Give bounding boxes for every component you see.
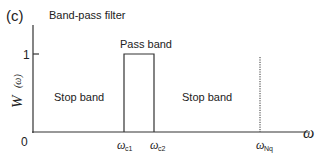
- origin-label: 0: [21, 135, 28, 149]
- tick-wc2: ω c2: [150, 138, 166, 152]
- svg-text:Nq: Nq: [264, 145, 273, 153]
- svg-text:c2: c2: [158, 145, 166, 152]
- y-tick-label: 1: [23, 48, 30, 62]
- stop-band-right-label: Stop band: [182, 91, 232, 103]
- svg-text:c1: c1: [125, 145, 133, 152]
- chart-title: Band-pass filter: [49, 9, 126, 21]
- y-axis-label: W (ω): [9, 74, 25, 108]
- pass-band-label: Pass band: [120, 38, 172, 50]
- svg-text:W: W: [9, 94, 25, 108]
- pass-band-box: [124, 54, 154, 132]
- tick-wnq: ω Nq: [256, 138, 273, 153]
- band-pass-diagram: (c) Band-pass filter 1 0 W (ω) Pass band…: [0, 0, 321, 157]
- x-axis-label: ω: [303, 124, 314, 141]
- svg-text:(ω): (ω): [12, 74, 24, 88]
- stop-band-left-label: Stop band: [54, 91, 104, 103]
- panel-label: (c): [6, 7, 24, 24]
- tick-wc1: ω c1: [117, 138, 133, 152]
